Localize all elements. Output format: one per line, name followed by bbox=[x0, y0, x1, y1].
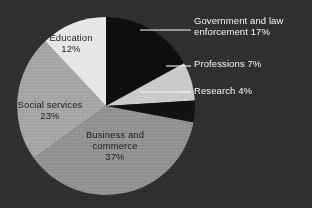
pie-label-professions: Professions 7% bbox=[194, 58, 306, 69]
pie-label-government-and-law-enforcement: Government and law enforcement 17% bbox=[194, 15, 310, 37]
pie-label-social-services: Social services 23% bbox=[6, 99, 94, 121]
pie-chart-figure: Education 12% Social services 23% Busine… bbox=[0, 0, 312, 208]
pie-label-business-and-commerce: Business and commerce 37% bbox=[73, 129, 157, 163]
pie-label-education: Education 12% bbox=[35, 32, 107, 54]
pie-label-research: Research 4% bbox=[194, 85, 298, 96]
